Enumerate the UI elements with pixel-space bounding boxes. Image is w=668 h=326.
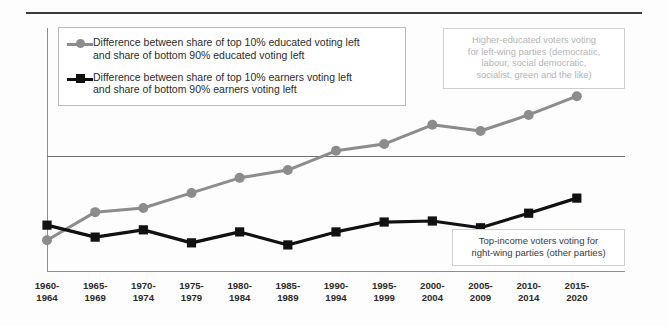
x-tick-line2: 1989 bbox=[262, 292, 314, 304]
x-tick-line1: 1990- bbox=[310, 280, 362, 292]
legend-item-earners-label: Difference between share of top 10% earn… bbox=[93, 71, 352, 97]
legend-educated-line2: and share of bottom 90% educated voting … bbox=[93, 49, 360, 62]
chart-legend: Difference between share of top 10% educ… bbox=[58, 27, 406, 106]
x-tick-label: 2005-2009 bbox=[455, 280, 507, 303]
x-tick-label: 2000-2004 bbox=[406, 280, 458, 303]
x-tick-line1: 1985- bbox=[262, 280, 314, 292]
x-tick-line2: 1984 bbox=[214, 292, 266, 304]
annotation-left-wing-line-1: for left-wing parties (democratic, bbox=[448, 47, 620, 59]
annotation-right-wing-line-1: right-wing parties (other parties) bbox=[457, 247, 620, 259]
legend-item-earners: Difference between share of top 10% earn… bbox=[67, 71, 395, 97]
legend-earners-line2: and share of bottom 90% earners voting l… bbox=[93, 83, 352, 96]
x-tick-line1: 1975- bbox=[166, 280, 218, 292]
x-tick-line2: 1964 bbox=[21, 292, 73, 304]
annotation-right-wing: Top-income voters voting for right-wing … bbox=[452, 229, 625, 266]
legend-item-educated-label: Difference between share of top 10% educ… bbox=[93, 36, 360, 62]
annotation-right-wing-line-0: Top-income voters voting for bbox=[457, 235, 620, 247]
x-tick-label: 2010-2014 bbox=[503, 280, 555, 303]
x-tick-line1: 1980- bbox=[214, 280, 266, 292]
x-tick-line2: 1974 bbox=[117, 292, 169, 304]
x-tick-label: 1980-1984 bbox=[214, 280, 266, 303]
x-tick-label: 2015-2020 bbox=[551, 280, 603, 303]
x-tick-label: 1965-1969 bbox=[69, 280, 121, 303]
x-tick-line1: 2015- bbox=[551, 280, 603, 292]
x-tick-label: 1995-1999 bbox=[358, 280, 410, 303]
x-axis-tick-labels: 1960-19641965-19691970-19741975-19791980… bbox=[47, 280, 625, 320]
top-divider-rule bbox=[26, 12, 642, 14]
x-tick-line2: 2014 bbox=[503, 292, 555, 304]
x-tick-label: 1960-1964 bbox=[21, 280, 73, 303]
x-tick-label: 1970-1974 bbox=[117, 280, 169, 303]
annotation-left-wing-line-0: Higher-educated voters voting bbox=[448, 35, 620, 47]
annotation-left-wing: Higher-educated voters voting for left-w… bbox=[443, 28, 625, 89]
x-tick-line1: 2005- bbox=[455, 280, 507, 292]
x-tick-line1: 2010- bbox=[503, 280, 555, 292]
x-tick-line2: 1994 bbox=[310, 292, 362, 304]
chart-page: Difference between share of top 10% educ… bbox=[0, 0, 668, 326]
x-tick-label: 1975-1979 bbox=[166, 280, 218, 303]
x-tick-line2: 1969 bbox=[69, 292, 121, 304]
x-tick-line1: 1970- bbox=[117, 280, 169, 292]
x-tick-label: 1985-1989 bbox=[262, 280, 314, 303]
annotation-left-wing-line-2: labour, social democratic, bbox=[448, 58, 620, 70]
legend-item-educated: Difference between share of top 10% educ… bbox=[67, 36, 395, 62]
x-tick-line2: 2009 bbox=[455, 292, 507, 304]
x-tick-line2: 2004 bbox=[406, 292, 458, 304]
x-tick-label: 1990-1994 bbox=[310, 280, 362, 303]
x-tick-line2: 2020 bbox=[551, 292, 603, 304]
x-tick-line1: 1960- bbox=[21, 280, 73, 292]
black-square-marker-icon bbox=[67, 72, 93, 87]
x-tick-line2: 1999 bbox=[358, 292, 410, 304]
legend-earners-line1: Difference between share of top 10% earn… bbox=[93, 71, 352, 84]
x-tick-line1: 1995- bbox=[358, 280, 410, 292]
annotation-left-wing-text: Higher-educated voters voting for left-w… bbox=[448, 35, 620, 81]
x-tick-line1: 2000- bbox=[406, 280, 458, 292]
annotation-left-wing-line-3: socialist, green and the like) bbox=[448, 70, 620, 82]
x-tick-line1: 1965- bbox=[69, 280, 121, 292]
annotation-right-wing-text: Top-income voters voting for right-wing … bbox=[457, 235, 620, 259]
zero-baseline bbox=[47, 156, 625, 157]
x-tick-line2: 1979 bbox=[166, 292, 218, 304]
gray-circle-marker-icon bbox=[67, 37, 93, 52]
legend-educated-line1: Difference between share of top 10% educ… bbox=[93, 36, 360, 49]
